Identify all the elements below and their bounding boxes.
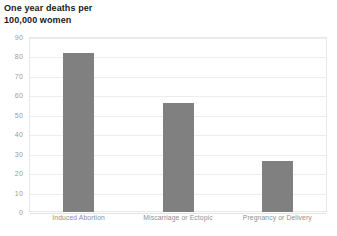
x-tick-label: Pregnancy or Delivery (228, 214, 327, 221)
y-tick-label: 20 (15, 170, 23, 177)
bars-group (29, 37, 327, 212)
y-tick-label: 90 (15, 34, 23, 41)
y-tick-label: 50 (15, 111, 23, 118)
y-tick-label: 80 (15, 53, 23, 60)
chart-title-line-2: 100,000 women (4, 15, 204, 27)
bar (163, 103, 194, 212)
y-tick-label: 40 (15, 131, 23, 138)
bar-chart: One year deaths per 100,000 women 908070… (0, 0, 337, 236)
x-tick-label: Miscarriage or Ectopic (128, 214, 227, 221)
bar (262, 161, 293, 212)
y-tick-label: 70 (15, 72, 23, 79)
chart-title-line-1: One year deaths per (4, 3, 204, 15)
y-tick-label: 30 (15, 150, 23, 157)
chart-title: One year deaths per 100,000 women (4, 3, 204, 26)
x-axis: Induced AbortionMiscarriage or EctopicPr… (29, 214, 327, 228)
x-tick-label: Induced Abortion (29, 214, 128, 221)
y-axis: 9080706050403020100 (0, 37, 27, 212)
y-tick-label: 60 (15, 92, 23, 99)
bar (63, 53, 94, 212)
y-tick-label: 10 (15, 189, 23, 196)
y-tick-label: 0 (19, 209, 23, 216)
